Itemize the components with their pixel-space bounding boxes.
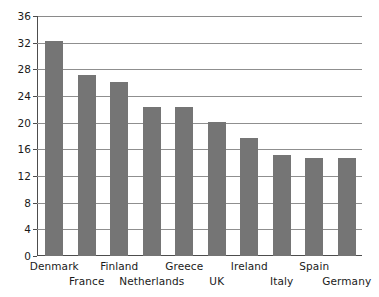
bar bbox=[240, 138, 258, 256]
bar bbox=[175, 107, 193, 256]
y-tick-label: 20 bbox=[5, 117, 31, 128]
y-tick-label: 8 bbox=[5, 197, 31, 208]
bar bbox=[143, 107, 161, 256]
x-tick-label: Ireland bbox=[231, 261, 268, 272]
bar bbox=[110, 82, 128, 256]
bar bbox=[78, 75, 96, 256]
y-tick-label: 16 bbox=[5, 144, 31, 155]
y-tick-label: 36 bbox=[5, 11, 31, 22]
y-tick-label: 0 bbox=[5, 251, 31, 262]
bars-group bbox=[37, 16, 362, 256]
y-tick-label: 24 bbox=[5, 91, 31, 102]
x-tick-label: Spain bbox=[299, 261, 329, 272]
y-tick-label: 12 bbox=[5, 171, 31, 182]
y-tick-label: 32 bbox=[5, 37, 31, 48]
bar bbox=[45, 41, 63, 256]
bar bbox=[338, 158, 356, 256]
bar bbox=[208, 122, 226, 256]
x-tick-label: Netherlands bbox=[119, 276, 184, 287]
x-tick-label: Finland bbox=[100, 261, 138, 272]
x-tick-label: Italy bbox=[270, 276, 293, 287]
bar bbox=[305, 158, 323, 256]
x-tick-label: Denmark bbox=[30, 261, 79, 272]
bar-chart: 04812162024283236 DenmarkFranceFinlandNe… bbox=[0, 0, 379, 297]
x-tick-label: France bbox=[69, 276, 105, 287]
y-axis: 04812162024283236 bbox=[0, 0, 31, 297]
plot-area bbox=[37, 16, 362, 256]
y-tick-label: 4 bbox=[5, 224, 31, 235]
x-tick-label: Greece bbox=[165, 261, 203, 272]
x-tick-label: Germany bbox=[322, 276, 371, 287]
y-tick-label: 28 bbox=[5, 64, 31, 75]
bar bbox=[273, 155, 291, 256]
x-tick-label: UK bbox=[209, 276, 224, 287]
x-axis: DenmarkFranceFinlandNetherlandsGreeceUKI… bbox=[37, 257, 362, 297]
